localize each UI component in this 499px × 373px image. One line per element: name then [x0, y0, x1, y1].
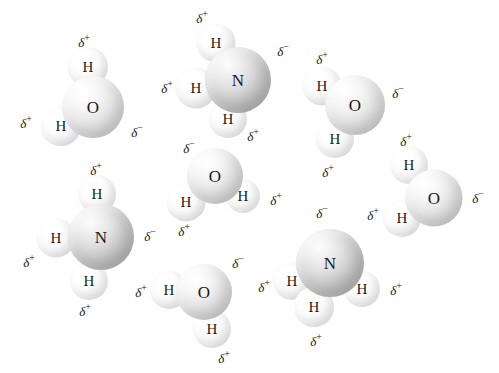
charge-sign: − — [398, 83, 404, 94]
charge-label-delta-negative: δ− — [277, 45, 289, 58]
charge-sign: − — [137, 122, 143, 133]
atom-label-hydrogen: H — [317, 79, 328, 94]
atom-oxygen: O — [325, 75, 385, 135]
charge-label-delta-positive: δ+ — [178, 225, 190, 238]
atom-label-hydrogen: H — [223, 112, 234, 127]
charge-sign: − — [238, 253, 244, 264]
atom-label-nitrogen: N — [95, 229, 107, 246]
charge-label-delta-positive: δ+ — [367, 209, 379, 222]
atom-label-hydrogen: H — [191, 81, 202, 96]
charge-sign: + — [264, 277, 270, 288]
charge-label-delta-negative: δ− — [392, 87, 404, 100]
charge-label-delta-positive: δ+ — [247, 130, 259, 143]
charge-sign: − — [189, 138, 195, 149]
charge-label-delta-positive: δ+ — [135, 286, 147, 299]
atom-label-oxygen: O — [198, 284, 210, 301]
atom-label-hydrogen: H — [404, 158, 415, 173]
charge-sign: + — [184, 221, 190, 232]
atom-label-hydrogen: H — [330, 132, 341, 147]
charge-label-delta-negative: δ− — [144, 230, 156, 243]
charge-sign: + — [26, 113, 32, 124]
charge-label-delta-negative: δ− — [131, 126, 143, 139]
atom-oxygen: O — [62, 76, 124, 138]
charge-label-delta-positive: δ+ — [161, 82, 173, 95]
charge-label-delta-positive: δ+ — [258, 281, 270, 294]
charge-sign: + — [85, 301, 91, 312]
charge-sign: + — [406, 131, 412, 142]
molecule-diagram: HHOδ+δ+δ−HHHNδ+δ+δ+δ−HHOδ+δ+δ−HHOδ−δ+δ+H… — [0, 0, 499, 373]
charge-sign: + — [316, 331, 322, 342]
atom-label-hydrogen: H — [207, 322, 218, 337]
charge-sign: + — [202, 8, 208, 19]
charge-sign: + — [322, 49, 328, 60]
atom-label-hydrogen: H — [211, 36, 222, 51]
charge-sign: + — [84, 32, 90, 43]
charge-sign: + — [328, 162, 334, 173]
charge-sign: + — [224, 348, 230, 359]
charge-sign: + — [396, 280, 402, 291]
atom-label-hydrogen: H — [83, 60, 94, 75]
charge-sign: − — [150, 226, 156, 237]
charge-label-delta-positive: δ+ — [218, 352, 230, 365]
charge-label-delta-positive: δ+ — [90, 164, 102, 177]
charge-label-delta-positive: δ+ — [270, 194, 282, 207]
charge-label-delta-negative: δ− — [316, 207, 328, 220]
charge-label-delta-positive: δ+ — [78, 36, 90, 49]
atom-oxygen: O — [187, 148, 243, 204]
charge-label-delta-positive: δ+ — [316, 53, 328, 66]
atom-label-oxygen: O — [349, 97, 361, 114]
charge-label-delta-positive: δ+ — [400, 135, 412, 148]
atom-label-hydrogen: H — [181, 195, 192, 210]
charge-sign: + — [167, 78, 173, 89]
atom-oxygen: O — [176, 264, 232, 320]
atom-label-hydrogen: H — [164, 283, 175, 298]
atom-nitrogen: N — [296, 229, 364, 297]
atom-label-hydrogen: H — [397, 211, 408, 226]
atom-label-hydrogen: H — [357, 282, 368, 297]
charge-sign: + — [29, 252, 35, 263]
atom-nitrogen: N — [205, 47, 271, 113]
charge-label-delta-negative: δ− — [472, 192, 484, 205]
atom-label-hydrogen: H — [287, 274, 298, 289]
atom-label-hydrogen: H — [309, 300, 320, 315]
charge-label-delta-positive: δ+ — [79, 305, 91, 318]
charge-sign: + — [141, 282, 147, 293]
charge-sign: + — [96, 160, 102, 171]
charge-sign: + — [253, 126, 259, 137]
charge-sign: + — [373, 205, 379, 216]
atom-label-oxygen: O — [428, 190, 440, 207]
charge-sign: − — [478, 188, 484, 199]
charge-label-delta-positive: δ+ — [196, 12, 208, 25]
charge-sign: − — [283, 41, 289, 52]
charge-label-delta-positive: δ+ — [20, 117, 32, 130]
charge-label-delta-positive: δ+ — [23, 256, 35, 269]
charge-label-delta-positive: δ+ — [322, 166, 334, 179]
atom-label-hydrogen: H — [238, 189, 249, 204]
atom-nitrogen: N — [68, 204, 134, 270]
charge-sign: − — [322, 203, 328, 214]
charge-label-delta-negative: δ− — [232, 257, 244, 270]
charge-label-delta-positive: δ+ — [390, 284, 402, 297]
atom-label-hydrogen: H — [84, 274, 95, 289]
charge-sign: + — [276, 190, 282, 201]
atom-oxygen: O — [406, 170, 463, 227]
atom-label-oxygen: O — [209, 168, 221, 185]
atom-label-oxygen: O — [87, 99, 99, 116]
charge-label-delta-positive: δ+ — [310, 335, 322, 348]
atom-label-hydrogen: H — [92, 187, 103, 202]
atom-label-nitrogen: N — [324, 255, 336, 272]
charge-label-delta-negative: δ− — [183, 142, 195, 155]
atom-label-hydrogen: H — [51, 231, 62, 246]
atom-label-nitrogen: N — [232, 72, 244, 89]
